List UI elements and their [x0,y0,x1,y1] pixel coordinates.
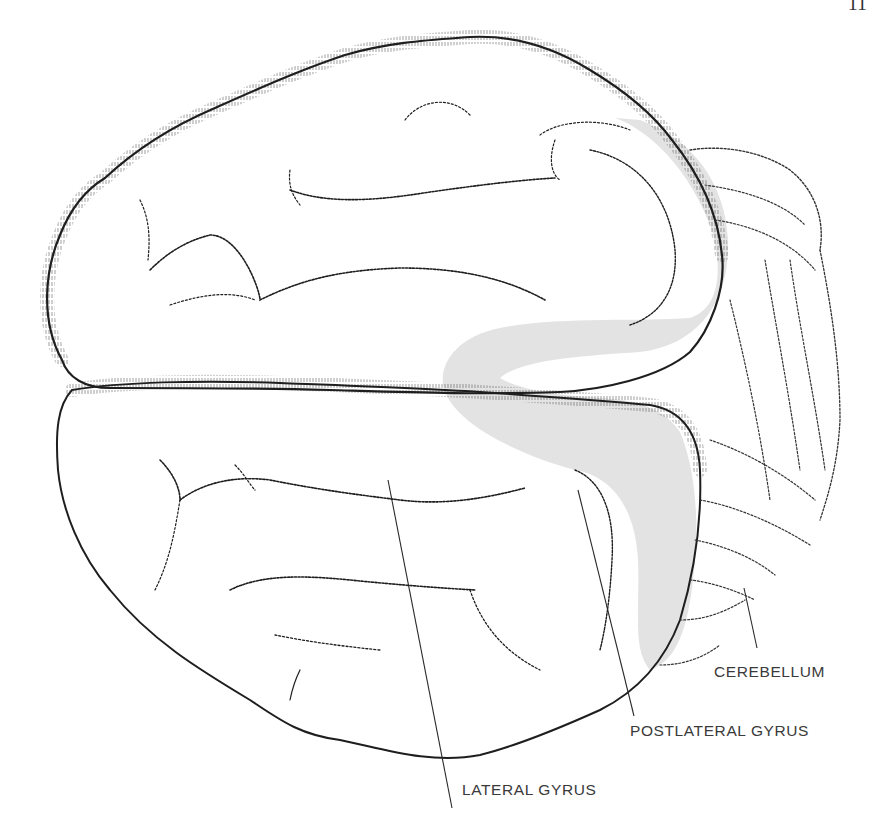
brain-illustration [0,0,879,830]
callout-line-postlateral-gyrus [578,490,634,716]
label-lateral-gyrus: LATERAL GYRUS [462,781,596,799]
label-postlateral-gyrus: POSTLATERAL GYRUS [630,722,809,740]
callout-line-cerebellum [744,588,757,648]
label-cerebellum: CEREBELLUM [714,663,825,681]
callout-line-lateral-gyrus [388,480,452,808]
